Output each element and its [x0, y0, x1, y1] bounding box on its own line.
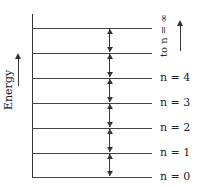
transition-arrow-icon	[109, 54, 110, 77]
energy-level-2	[32, 128, 152, 129]
energy-up-arrow-icon	[18, 58, 19, 86]
energy-level-0	[32, 177, 152, 178]
level-label-n0: n = 0	[160, 171, 190, 183]
to-infinity-label: to n = ∞	[158, 14, 169, 57]
transition-arrow-icon	[109, 154, 110, 176]
energy-level-3	[32, 103, 152, 104]
level-label-n1: n = 1	[160, 147, 190, 159]
energy-level-6	[32, 28, 152, 29]
energy-level-4	[32, 78, 152, 79]
level-label-n3: n = 3	[160, 97, 190, 109]
level-label-n2: n = 2	[160, 122, 190, 134]
transition-arrow-icon	[109, 79, 110, 102]
level-label-n4: n = 4	[160, 72, 190, 84]
energy-axis-label: Energy	[2, 70, 15, 110]
transition-arrow-icon	[109, 29, 110, 52]
transition-arrow-icon	[109, 104, 110, 127]
to-infinity-arrow-icon	[180, 25, 181, 51]
transition-arrow-icon	[109, 129, 110, 152]
energy-level-1	[32, 153, 152, 154]
energy-level-5	[32, 53, 152, 54]
